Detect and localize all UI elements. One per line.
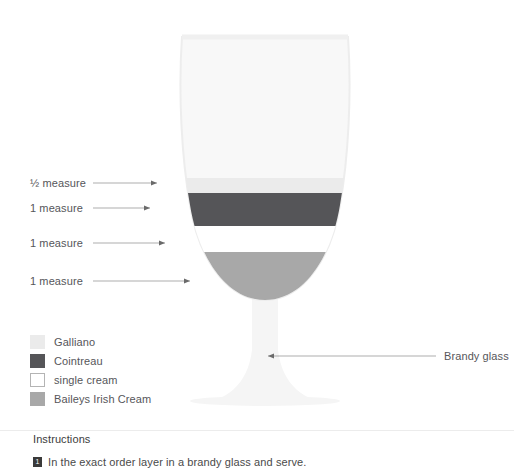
legend-label-single-cream: single cream: [54, 374, 118, 386]
instructions-section: Instructions 1 In the exact order layer …: [33, 433, 493, 469]
instruction-step: 1 In the exact order layer in a brandy g…: [33, 456, 493, 469]
legend-label-cointreau: Cointreau: [54, 355, 103, 367]
measure-label-baileys: 1 measure: [30, 275, 83, 287]
legend-item-galliano: Galliano: [30, 332, 220, 351]
legend-label-galliano: Galliano: [54, 336, 95, 348]
layer-cointreau: [150, 193, 400, 226]
instructions-heading: Instructions: [33, 433, 493, 446]
legend-swatch-single-cream: [30, 373, 45, 387]
arrowhead-cointreau: [144, 206, 150, 211]
legend-swatch-galliano: [30, 335, 45, 349]
instructions-divider: [0, 430, 514, 431]
measure-label-galliano: ½ measure: [30, 177, 86, 189]
measure-label-cointreau: 1 measure: [30, 202, 83, 214]
step-number-badge: 1: [33, 457, 42, 467]
arrowhead-galliano: [151, 181, 157, 186]
legend-swatch-baileys: [30, 392, 45, 406]
legend-item-single-cream: single cream: [30, 370, 220, 389]
step-text: In the exact order layer in a brandy gla…: [48, 456, 306, 469]
legend-swatch-cointreau: [30, 354, 45, 368]
legend-label-baileys: Baileys Irish Cream: [54, 393, 151, 405]
legend-item-baileys: Baileys Irish Cream: [30, 389, 220, 408]
legend-item-cointreau: Cointreau: [30, 351, 220, 370]
glass-stem: [252, 298, 278, 358]
measure-label-single-cream: 1 measure: [30, 237, 83, 249]
arrowhead-baileys: [184, 279, 190, 284]
diagram-canvas: ½ measure 1 measure 1 measure 1 measure …: [0, 0, 514, 476]
arrowhead-single-cream: [159, 241, 165, 246]
legend: Galliano Cointreau single cream Baileys …: [30, 332, 220, 408]
callout-label-brandy-glass: Brandy glass: [444, 350, 509, 362]
